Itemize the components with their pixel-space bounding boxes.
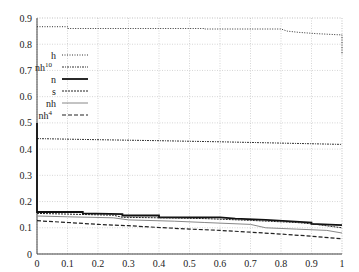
x-axis-ticks: 00.10.20.30.40.50.60.70.80.91 [35,258,345,269]
x-tick-label: 0 [35,258,40,269]
x-tick-label: 0.2 [92,258,105,269]
x-tick-label: 1 [340,258,345,269]
y-tick-label: 0.5 [20,117,33,128]
legend-label: h [51,50,56,61]
x-tick-label: 0.6 [214,258,227,269]
legend-label: s [52,86,56,97]
y-tick-label: 0.1 [20,222,33,233]
y-tick-label: 0.6 [20,91,33,102]
legend-label: nh4 [39,109,53,121]
x-tick-label: 0.7 [244,258,257,269]
y-axis-ticks: 00.10.20.30.40.50.60.70.80.9 [20,13,33,260]
y-tick-label: 0.2 [20,196,33,207]
y-tick-label: 0.7 [20,65,33,76]
x-tick-label: 0.3 [122,258,135,269]
x-tick-label: 0.4 [153,258,166,269]
x-tick-label: 0.5 [183,258,196,269]
x-tick-label: 0.9 [305,258,318,269]
x-tick-label: 0.1 [61,258,74,269]
grid-lines [37,18,342,254]
legend-label: n [51,74,56,85]
y-tick-label: 0.4 [20,144,33,155]
y-tick-label: 0 [27,249,32,260]
y-tick-label: 0.3 [20,170,33,181]
y-tick-label: 0.8 [20,39,33,50]
legend-label: nh [46,98,56,109]
x-tick-label: 0.8 [275,258,288,269]
line-chart: 00.10.20.30.40.50.60.70.80.91 00.10.20.3… [0,0,359,272]
y-tick-label: 0.9 [20,13,33,24]
legend: hnh10nsnhnh4 [35,50,88,121]
